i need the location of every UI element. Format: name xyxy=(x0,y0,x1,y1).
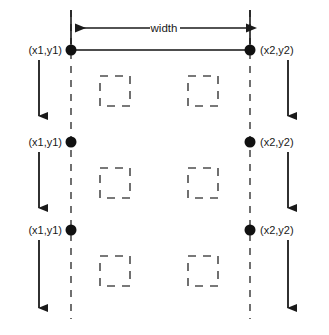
point-bottom-left xyxy=(66,225,77,236)
point-bottom-right xyxy=(245,225,256,236)
label-middle-left-coordinate: (x1,y1) xyxy=(28,136,62,148)
placeholder-square xyxy=(188,168,218,198)
point-middle-left xyxy=(66,137,77,148)
label-bottom-right-coordinate: (x2,y2) xyxy=(260,224,294,236)
width-label: width xyxy=(150,22,178,34)
point-middle-right xyxy=(245,137,256,148)
placeholder-square xyxy=(100,256,130,286)
placeholder-squares xyxy=(100,76,218,286)
endpoint-dots xyxy=(66,45,256,236)
label-top-left-coordinate: (x1,y1) xyxy=(28,44,62,56)
placeholder-square xyxy=(100,76,130,106)
placeholder-square xyxy=(100,168,130,198)
label-middle-right-coordinate: (x2,y2) xyxy=(260,136,294,148)
placeholder-square xyxy=(188,76,218,106)
diagram-svg: width xyxy=(0,0,329,335)
label-top-right-coordinate: (x2,y2) xyxy=(260,44,294,56)
label-bottom-left-coordinate: (x1,y1) xyxy=(28,224,62,236)
point-top-right xyxy=(245,45,256,56)
placeholder-square xyxy=(188,256,218,286)
point-top-left xyxy=(66,45,77,56)
guide-lines xyxy=(71,10,250,319)
width-dimension: width xyxy=(71,10,250,44)
diagram-canvas: width xyxy=(0,0,329,335)
